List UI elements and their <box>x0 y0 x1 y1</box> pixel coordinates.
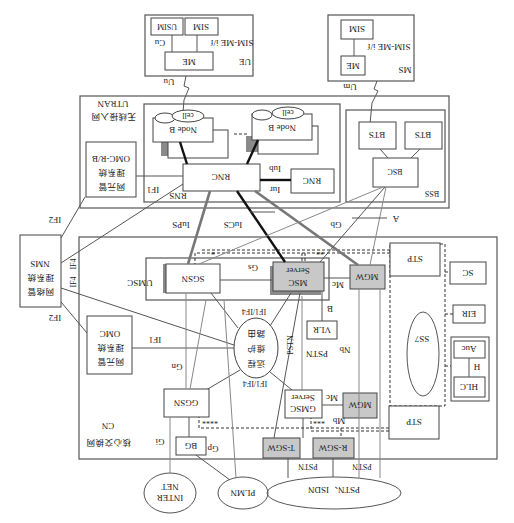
uu-radio-link <box>183 76 189 112</box>
remote-label-2: 维护 <box>247 344 265 354</box>
iucs-label: IuCS <box>224 220 243 230</box>
ue-usim-label: USIM <box>157 22 177 31</box>
remote-label-1: 远程 <box>247 359 265 369</box>
stp-bottom-label: STP <box>406 417 422 427</box>
utran-cn-label: 无线接入网 <box>91 112 136 122</box>
omc-rb-label-2: 理系统 <box>98 168 125 178</box>
omc-label-1: 网元管 <box>97 357 124 367</box>
hlr-h-label: H <box>473 362 480 372</box>
bss-label: BSS <box>425 189 439 198</box>
if1if4-bottom-label: IF1/IF4 <box>243 379 267 388</box>
ue-cu-label: Cu <box>154 38 165 48</box>
ms-me-label: ME <box>346 61 360 71</box>
ms-region-label: MS <box>398 65 411 75</box>
gmsc-label-1: GMSC <box>290 404 316 414</box>
omc-rb-label-3: OMC-R/B <box>92 154 130 164</box>
gmsc-label-2: Server <box>291 393 315 403</box>
star3-label: *** <box>313 416 325 425</box>
mgw-bottom-label: MGW <box>348 400 372 410</box>
ue-sim-me-if-label: SIM-ME i/f <box>211 38 254 48</box>
internet-label-2: NET <box>161 482 179 492</box>
if2-top-label: IF2 <box>49 215 62 225</box>
plmn-label: PLMN <box>230 488 256 498</box>
mc-top-label: Mc <box>332 280 344 290</box>
if4-a-label: IF4 <box>69 258 78 269</box>
bsc-label: BSC <box>387 167 402 176</box>
iups-label: IuPS <box>172 220 190 230</box>
omc-label-3: OMC <box>100 329 121 339</box>
nms-label-3: NMS <box>30 259 50 269</box>
umsc-label: UMSC <box>127 278 153 288</box>
sgsn-label: SGSN <box>181 274 205 284</box>
ss7-label: SS7 <box>414 334 429 344</box>
ue-sim-label: SIM <box>193 22 209 32</box>
hlr-label: HLC <box>460 382 478 392</box>
pstn-3-label: PSTN <box>298 462 318 471</box>
ggsn-label: GGSN <box>173 398 198 408</box>
gb-label: Gb <box>330 220 341 230</box>
pstn-isdn-label: PSTN、ISDN <box>307 485 360 495</box>
internet-label-1: INTER <box>157 493 184 503</box>
if1-omc-label: IF1 <box>149 335 162 345</box>
sc-label: SC <box>462 268 473 278</box>
star2-label: ** <box>316 247 324 256</box>
um-label: Um <box>343 82 357 92</box>
gn-label: Gn <box>171 362 182 372</box>
gs-label: Gs <box>248 263 258 273</box>
tsgw-label: T-SGW <box>267 443 295 453</box>
if4-b-label: IF4 <box>69 276 78 287</box>
a-label: A <box>392 214 399 224</box>
if1if4-top-label: IF1/IF4 <box>242 307 266 316</box>
remote-label-3: 路由 <box>247 329 265 339</box>
msc-server-label-1: MSC <box>288 278 307 288</box>
cell-right-label: cell <box>281 108 293 117</box>
star1-label: * <box>210 247 215 257</box>
um-radio-link <box>370 81 378 124</box>
omc-label-2: 理系统 <box>97 343 124 353</box>
ss7-ellipse <box>407 312 439 396</box>
eir-label: EIR <box>462 309 477 319</box>
iur-label: Iur <box>270 185 281 195</box>
gi-label: Gi <box>155 437 164 447</box>
star4-label: **** <box>202 416 218 425</box>
bg-label: BG <box>184 441 197 451</box>
nms-label-1: 网络管 <box>27 287 54 297</box>
omc-rb-label-1: 网元管 <box>98 182 125 192</box>
cell-left-label: cell <box>181 111 193 120</box>
cn-label: CN <box>101 421 114 431</box>
rsgw-label: R-SGW <box>318 443 348 453</box>
nb-label: Nb <box>339 345 350 355</box>
gp-label: Gp <box>207 444 218 454</box>
vlr-label: VLR <box>313 325 331 335</box>
utran-label: UTRAN <box>97 99 128 109</box>
mb-label: Mb <box>332 416 345 426</box>
if1-rns-label: IF1 <box>147 185 160 195</box>
iub-label: Iub <box>269 164 281 174</box>
stp-top-label: STP <box>407 254 423 264</box>
ue-region-label: UE <box>239 57 251 67</box>
rnc-main-label: RNC <box>212 172 231 182</box>
mc-bottom-label: Mc <box>326 393 338 403</box>
bts-right-label: BTS <box>415 130 432 140</box>
internet-ellipse <box>144 473 196 513</box>
nodeb-left-label: Node B <box>169 125 197 135</box>
b-label: B <box>327 304 333 314</box>
pstn-2-label: PSTN <box>286 335 295 355</box>
cn-cn-label: 核心交换网 <box>86 438 131 448</box>
mgw-top-label: MGW <box>355 272 379 282</box>
rnc-other-label: RNC <box>303 176 322 186</box>
msc-server-label-2: Server <box>286 266 310 276</box>
bts-left-label: BTS <box>369 130 386 140</box>
network-architecture-diagram: ME SIM USIM SIM-ME i/f Cu UE Uu ME SIM S… <box>0 0 514 523</box>
uu-label: Uu <box>163 77 174 87</box>
nodeb-right-label: Node B <box>268 123 296 133</box>
rns-label: RNS <box>169 191 187 201</box>
ms-sim-label: SIM <box>349 24 365 34</box>
auc-label: Auc <box>462 344 477 354</box>
diagram-svg: ME SIM USIM SIM-ME i/f Cu UE Uu ME SIM S… <box>0 0 514 523</box>
if2-bottom-label: IF2 <box>49 313 62 323</box>
ms-sim-me-if-label: SIM-ME i/f <box>368 42 411 52</box>
nms-label-2: 理系统 <box>27 273 54 283</box>
pstn-1-label: PSTN <box>305 349 328 359</box>
pstn-4-label: PSTN <box>352 462 372 471</box>
